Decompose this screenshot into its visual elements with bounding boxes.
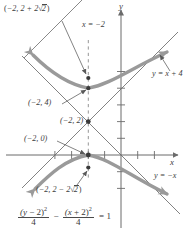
leader-focus-lower: [77, 171, 87, 185]
equation-x-fraction: (x + 2)2 4: [63, 206, 94, 228]
equation-minus: −: [51, 211, 60, 221]
point-focus-upper: [86, 76, 90, 80]
equation-y-fraction: (y − 2)2 4: [18, 206, 49, 228]
x-axis-label: x: [170, 158, 174, 167]
hyperbola-equation: (y − 2)2 4 − (x + 2)2 4 = 1: [18, 206, 111, 228]
point-focus-lower: [86, 165, 90, 169]
leader-vertex-upper: [62, 90, 86, 104]
label-focus-lower: (−2, 2 − 2√2): [36, 185, 82, 194]
asymptote-positive: [22, 32, 178, 188]
label-asymptote-positive: y = x + 4: [152, 70, 183, 78]
point-center: [86, 119, 91, 124]
leader-axis-of-symmetry: [89, 33, 95, 44]
label-focus-upper: (−2, 2 + 2√2): [4, 4, 50, 13]
equation-equals: = 1: [96, 211, 111, 221]
point-vertex-lower: [86, 153, 91, 158]
label-center: (−2, 2): [60, 117, 83, 125]
label-axis-of-symmetry: x = −2: [82, 21, 105, 29]
hyperbola-upper-branch: [33, 52, 167, 88]
label-vertex-upper: (−2, 4): [28, 99, 51, 107]
axes-group: [6, 10, 178, 228]
graph-canvas: [0, 0, 190, 235]
hyperbola-figure: (−2, 2 + 2√2) x = −2 y x (−2, 4) (−2, 2)…: [0, 0, 190, 235]
label-asymptote-negative: y = −x: [154, 172, 176, 180]
label-vertex-lower: (−2, 0): [24, 135, 47, 143]
leader-vertex-lower: [57, 141, 85, 154]
y-axis-label: y: [119, 2, 123, 11]
point-vertex-upper: [86, 86, 90, 90]
